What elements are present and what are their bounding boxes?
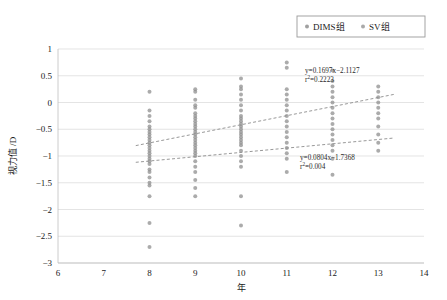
- data-point: [239, 103, 243, 107]
- data-point: [148, 119, 152, 123]
- scatter-chart: 10.50−0.5−1−1.5−2−2.5−367891011121314年视力…: [0, 0, 447, 300]
- data-point: [239, 87, 243, 91]
- data-point: [285, 157, 289, 161]
- data-point: [331, 127, 335, 131]
- data-point: [148, 221, 152, 225]
- data-point: [285, 135, 289, 139]
- data-point: [193, 186, 197, 190]
- data-point: [239, 224, 243, 228]
- data-point: [376, 84, 380, 88]
- data-point: [285, 66, 289, 70]
- y-axis-tick-label: −2.5: [36, 231, 53, 241]
- y-axis-tick-label: 0.5: [41, 71, 53, 81]
- y-axis-tick-label: −0.5: [36, 124, 53, 134]
- data-point: [285, 92, 289, 96]
- x-axis-tick-label: 10: [237, 268, 247, 278]
- x-axis-tick-label: 9: [193, 268, 198, 278]
- data-point: [148, 183, 152, 187]
- data-point: [331, 173, 335, 177]
- data-point: [193, 159, 197, 163]
- data-point: [331, 101, 335, 105]
- data-point: [376, 149, 380, 153]
- data-point: [148, 114, 152, 118]
- data-point: [193, 90, 197, 94]
- legend-marker-sv: [361, 25, 365, 29]
- data-point: [239, 143, 243, 147]
- data-point: [193, 170, 197, 174]
- data-point: [331, 90, 335, 94]
- x-axis-tick-label: 14: [420, 268, 430, 278]
- data-point: [239, 159, 243, 163]
- data-point: [331, 111, 335, 115]
- x-axis-tick-label: 13: [374, 268, 384, 278]
- data-point: [331, 84, 335, 88]
- data-point: [376, 117, 380, 121]
- data-point: [376, 141, 380, 145]
- data-point: [148, 175, 152, 179]
- chart-canvas: 10.50−0.5−1−1.5−2−2.5−367891011121314年视力…: [0, 0, 447, 300]
- data-point: [193, 165, 197, 169]
- x-axis-title: 年: [237, 282, 246, 293]
- data-point: [331, 138, 335, 142]
- data-point: [193, 178, 197, 182]
- legend-label-sv: SV组: [369, 21, 390, 32]
- data-point: [148, 90, 152, 94]
- data-point: [285, 119, 289, 123]
- data-point: [376, 125, 380, 129]
- data-point: [239, 98, 243, 102]
- data-point: [193, 194, 197, 198]
- y-axis-tick-label: −1.5: [36, 178, 53, 188]
- x-axis-tick-label: 6: [56, 268, 61, 278]
- data-point: [285, 170, 289, 174]
- data-point: [239, 194, 243, 198]
- dims-fit-equation-line1: y=0.1697x−2.1127: [305, 67, 360, 75]
- y-axis-tick-label: −3: [42, 258, 52, 268]
- data-point: [376, 101, 380, 105]
- data-point: [285, 130, 289, 134]
- data-point: [285, 125, 289, 129]
- data-point: [376, 111, 380, 115]
- data-point: [285, 98, 289, 102]
- data-point: [148, 162, 152, 166]
- y-axis-tick-label: −2: [42, 205, 52, 215]
- data-point: [239, 109, 243, 113]
- data-point: [193, 98, 197, 102]
- data-point: [239, 92, 243, 96]
- legend-label-dims: DIMS组: [313, 21, 345, 32]
- data-point: [193, 154, 197, 158]
- data-point: [285, 87, 289, 91]
- data-point: [148, 170, 152, 174]
- y-axis-tick-label: 1: [48, 44, 53, 54]
- data-point: [331, 122, 335, 126]
- data-point: [331, 133, 335, 137]
- x-axis-tick-label: 11: [282, 268, 291, 278]
- data-point: [239, 76, 243, 80]
- data-point: [331, 149, 335, 153]
- data-point: [193, 106, 197, 110]
- data-point: [331, 117, 335, 121]
- data-point: [285, 60, 289, 64]
- data-point: [148, 109, 152, 113]
- y-axis-tick-label: −1: [42, 151, 52, 161]
- y-axis-title: 视力值 /D: [7, 136, 18, 175]
- data-point: [376, 106, 380, 110]
- sv-fit-equation-line1: y=0.0804x−1.7368: [300, 154, 355, 162]
- data-point: [285, 103, 289, 107]
- x-axis-tick-label: 8: [147, 268, 152, 278]
- data-point: [239, 165, 243, 169]
- data-point: [285, 109, 289, 113]
- data-point: [285, 151, 289, 155]
- dims-fit-equation-line2: r2=0.2223: [305, 74, 334, 84]
- data-point: [376, 90, 380, 94]
- x-axis-tick-label: 7: [102, 268, 107, 278]
- data-point: [148, 194, 152, 198]
- x-axis-tick-label: 12: [328, 268, 337, 278]
- data-point: [148, 245, 152, 249]
- data-point: [376, 133, 380, 137]
- data-point: [239, 154, 243, 158]
- data-point: [331, 95, 335, 99]
- legend-marker-dims: [305, 25, 309, 29]
- data-point: [285, 141, 289, 145]
- y-axis-tick-label: 0: [48, 98, 53, 108]
